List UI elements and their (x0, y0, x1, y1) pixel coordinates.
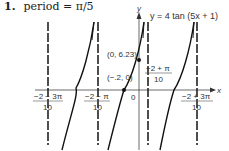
tangent-graph: x y y = 4 tan (5x + 1) (0, 6.23) (−.2, 0… (0, 0, 229, 151)
origin-label: 0 (131, 93, 136, 102)
point-y-intercept (137, 58, 141, 62)
x-axis-label: x (216, 86, 222, 95)
asymptote-label-2: −2 − π 10 (84, 92, 110, 112)
asymptotes (48, 22, 197, 145)
branch-1 (62, 22, 94, 150)
svg-text:−2 − π: −2 − π (85, 92, 109, 101)
svg-text:10: 10 (93, 103, 102, 112)
svg-text:10: 10 (43, 103, 52, 112)
point-x-intercept (122, 88, 126, 92)
svg-text:−2 + π: −2 + π (146, 64, 170, 73)
asymptote-label-3: −2 + π 10 (145, 64, 172, 84)
y-axis-arrow-icon (137, 12, 142, 19)
point-label-y-intercept: (0, 6.23) (107, 50, 137, 59)
point-label-x-intercept: (−.2, 0) (107, 73, 133, 82)
svg-text:−2 − 3π: −2 − 3π (34, 92, 63, 101)
svg-text:10: 10 (192, 103, 201, 112)
svg-text:−2 + 3π: −2 + 3π (182, 92, 211, 101)
x-axis-arrow-icon (210, 88, 216, 93)
tangent-curves (62, 22, 194, 150)
equation-label: y = 4 tan (5x + 1) (150, 11, 218, 21)
y-axis-label: y (136, 4, 142, 13)
branch-3 (160, 22, 194, 150)
svg-text:10: 10 (154, 75, 163, 84)
